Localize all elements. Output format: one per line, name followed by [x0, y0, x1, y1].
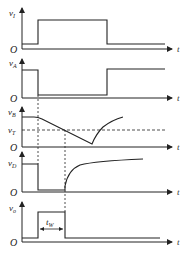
panel-vD: vD O t: [8, 152, 180, 198]
origin-label: O: [10, 44, 17, 55]
panel-vO: vo O t tW: [9, 202, 180, 248]
origin-label: O: [10, 142, 17, 153]
waveform-vD: [22, 159, 143, 190]
timing-diagram: vI O t vA O t vB vT O t vD O t vo O: [0, 0, 186, 258]
panel-vI: vI O t: [9, 8, 180, 55]
time-label: t: [177, 93, 180, 103]
panel-vA: vA O t: [9, 58, 180, 104]
label-vB: vB: [8, 107, 16, 118]
time-label: t: [177, 44, 180, 54]
origin-label: O: [10, 237, 17, 248]
origin-label: O: [10, 93, 17, 104]
label-vO: vo: [9, 203, 16, 214]
label-vT: vT: [8, 125, 16, 136]
label-vD: vD: [8, 158, 17, 169]
origin-label: O: [10, 187, 17, 198]
label-tW: tW: [46, 217, 55, 228]
time-label: t: [177, 237, 180, 247]
waveform-vA: [22, 69, 165, 95]
waveform-vO: [22, 212, 160, 238]
panel-vB: vB vT O t: [8, 107, 180, 153]
time-label: t: [177, 187, 180, 197]
label-vI: vI: [9, 8, 16, 19]
label-vA: vA: [9, 58, 17, 69]
waveform-vB: [22, 117, 123, 144]
time-label: t: [177, 142, 180, 152]
waveform-vI: [22, 20, 165, 44]
